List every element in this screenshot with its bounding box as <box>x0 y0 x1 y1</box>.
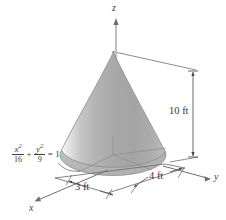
y-dimension-arrow-left <box>134 177 148 187</box>
equation-term-2: y2 9 <box>34 144 45 165</box>
y-axis-label: y <box>214 172 218 182</box>
equation-term-2-numerator: y2 <box>34 144 45 155</box>
equation-term-1-exponent: 2 <box>18 142 21 149</box>
x-axis <box>35 170 109 202</box>
equation-term-1: x2 16 <box>12 144 24 165</box>
equation-term-1-numerator: x2 <box>12 144 23 155</box>
cone-diagram-figure: z y x 10 ft 3 ft 4 ft x2 16 + y2 9 = 1 <box>0 0 226 220</box>
equation-term-1-denominator: 16 <box>12 155 24 164</box>
height-base-leader-line <box>170 157 198 162</box>
equation-term-2-denominator: 9 <box>36 155 44 164</box>
equation-term-2-exponent: 2 <box>40 142 43 149</box>
surface-equation-label: x2 16 + y2 9 = 1 <box>11 144 61 165</box>
equation-operator: + <box>27 150 32 159</box>
cone-solid <box>60 51 166 176</box>
height-dimension-label: 10 ft <box>169 106 189 117</box>
x-dimension-label: 3 ft <box>75 182 89 193</box>
diagram-canvas <box>0 0 226 220</box>
y-axis <box>163 166 211 182</box>
height-leader-line <box>117 53 196 71</box>
x-axis-label: x <box>29 203 33 213</box>
y-dimension-label: 4 ft <box>149 171 163 182</box>
equation-equals: = 1 <box>48 150 60 159</box>
x-dimension <box>66 175 113 199</box>
cone-apex <box>112 51 114 53</box>
z-axis-label: z <box>112 3 116 13</box>
